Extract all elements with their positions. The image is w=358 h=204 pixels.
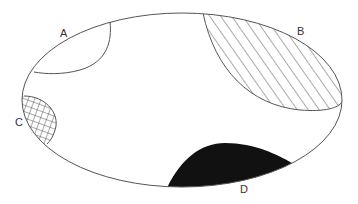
label-a: A <box>60 27 68 39</box>
region-a-boundary <box>34 22 110 74</box>
region-d <box>160 143 300 200</box>
label-b: B <box>297 25 304 37</box>
label-d: D <box>240 183 248 195</box>
label-c: C <box>15 116 23 128</box>
ellipse-region-diagram: A B C D <box>0 0 358 204</box>
